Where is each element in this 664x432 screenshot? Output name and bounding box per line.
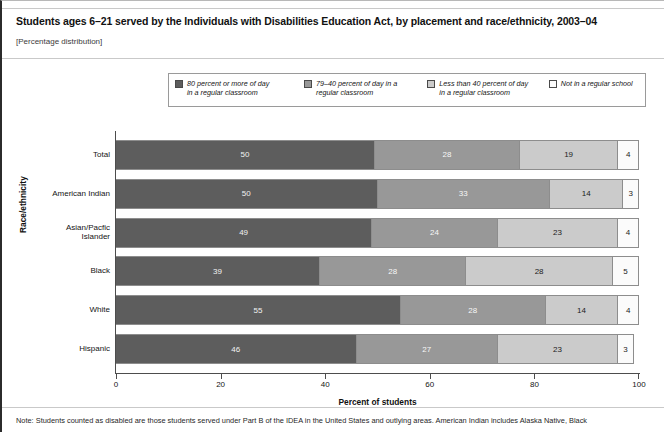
legend-label-2: Less than 40 percent of day in a regular…	[439, 79, 528, 98]
bar-segment: 4	[618, 140, 639, 170]
bar-value-label: 46	[231, 345, 240, 354]
x-axis-tick	[116, 374, 117, 379]
bar-value-label: 27	[422, 345, 431, 354]
bar-segment: 3	[618, 334, 634, 364]
bar-segment: 5	[613, 256, 639, 286]
segment-bottom-edge	[116, 285, 319, 286]
legend-item-1[interactable]: 79–40 percent of day in a regular classr…	[304, 79, 421, 102]
bar-value-label: 50	[242, 189, 251, 198]
y-axis-title: Race/ethnicity	[18, 176, 28, 233]
x-axis-tick	[221, 374, 222, 379]
segment-top-edge	[116, 179, 377, 180]
bar-value-label: 4	[626, 228, 630, 237]
segment-bottom-edge	[498, 247, 617, 248]
bar-segment: 14	[550, 179, 623, 209]
segment-top-edge	[116, 140, 374, 141]
segment-top-edge	[498, 218, 617, 219]
segment-top-edge	[546, 295, 618, 296]
bar-value-label: 28	[388, 267, 397, 276]
bar-segment: 4	[618, 218, 639, 248]
segment-bottom-edge	[116, 247, 371, 248]
segment-bottom-edge	[116, 169, 374, 170]
segment-top-edge	[618, 295, 638, 296]
legend-item-3[interactable]: Not in a regular school	[549, 79, 641, 102]
x-axis-tick-label: 0	[114, 380, 118, 389]
bar-segment: 50	[116, 179, 378, 209]
chart-page: Students ages 6–21 served by the Individ…	[0, 0, 664, 432]
segment-top-edge	[618, 334, 633, 335]
segment-top-edge	[116, 334, 356, 335]
legend-item-2[interactable]: Less than 40 percent of day in a regular…	[427, 79, 542, 102]
bar-value-label: 33	[459, 189, 468, 198]
segment-bottom-edge	[116, 363, 356, 364]
bar-segment: 19	[520, 140, 618, 170]
segment-bottom-edge	[116, 208, 377, 209]
y-axis-tick-label: Hispanic	[6, 344, 110, 354]
page-title: Students ages 6–21 served by the Individ…	[16, 15, 654, 27]
bar-row: 5033143	[116, 179, 639, 209]
segment-top-edge	[357, 334, 497, 335]
segment-top-edge	[378, 179, 550, 180]
x-axis-tick	[325, 374, 326, 379]
bar-value-label: 28	[468, 306, 477, 315]
segment-bottom-edge	[618, 247, 638, 248]
segment-top-edge	[618, 218, 638, 219]
segment-bottom-edge	[498, 363, 617, 364]
bar-row: 3928285	[116, 256, 639, 286]
segment-top-edge	[613, 256, 638, 257]
x-axis-line	[115, 373, 640, 374]
segment-bottom-edge	[320, 285, 465, 286]
bar-row: 5028194	[116, 140, 639, 170]
segment-bottom-edge	[520, 169, 617, 170]
note-divider	[2, 407, 664, 408]
legend-item-0[interactable]: 80 percent or more of day in a regular c…	[175, 79, 298, 102]
bar-segment: 4	[618, 295, 639, 325]
segment-top-edge	[116, 218, 371, 219]
x-axis-tick-label: 80	[530, 380, 539, 389]
segment-top-edge	[116, 295, 400, 296]
bar-value-label: 5	[623, 267, 627, 276]
bar-value-label: 14	[577, 306, 586, 315]
bar-segment: 50	[116, 140, 375, 170]
bar-value-label: 28	[442, 150, 451, 159]
legend-label-1: 79–40 percent of day in a regular classr…	[316, 79, 397, 98]
segment-bottom-edge	[357, 363, 497, 364]
segment-top-edge	[372, 218, 497, 219]
bar-segment: 55	[116, 295, 401, 325]
bar-value-label: 19	[564, 150, 573, 159]
bar-value-label: 14	[582, 189, 591, 198]
bar-segment: 46	[116, 334, 357, 364]
bar-value-label: 23	[553, 345, 562, 354]
legend-label-3: Not in a regular school	[561, 79, 633, 88]
y-axis-tick-label: Black	[6, 266, 110, 276]
header-divider-top	[2, 8, 664, 9]
segment-bottom-edge	[466, 285, 611, 286]
bar-value-label: 3	[623, 345, 627, 354]
legend-swatch-icon-0	[175, 80, 183, 88]
x-axis-title: Percent of students	[116, 397, 639, 407]
segment-bottom-edge	[618, 169, 638, 170]
plot-area: 5028194Total5033143American Indian492423…	[116, 131, 639, 373]
bar-segment: 28	[320, 256, 466, 286]
page-subtitle: [Percentage distribution]	[16, 37, 102, 46]
bar-segment: 14	[546, 295, 619, 325]
bar-value-label: 4	[626, 306, 630, 315]
chart-note: Note: Students counted as disabled are t…	[16, 416, 660, 432]
x-axis-tick-label: 60	[425, 380, 434, 389]
bar-value-label: 24	[430, 228, 439, 237]
segment-top-edge	[498, 334, 617, 335]
bar-segment: 23	[498, 218, 618, 248]
bar-segment: 24	[372, 218, 498, 248]
legend-swatch-icon-2	[427, 80, 435, 88]
bar-segment: 27	[357, 334, 498, 364]
x-axis-tick-label: 40	[321, 380, 330, 389]
segment-top-edge	[550, 179, 622, 180]
y-axis-tick-label: Total	[6, 150, 110, 160]
segment-top-edge	[320, 256, 465, 257]
segment-bottom-edge	[546, 324, 618, 325]
bar-segment: 23	[498, 334, 618, 364]
bar-segment: 28	[401, 295, 546, 325]
bar-value-label: 23	[553, 228, 562, 237]
y-axis-tick-label: White	[6, 305, 110, 315]
bar-segment: 39	[116, 256, 320, 286]
